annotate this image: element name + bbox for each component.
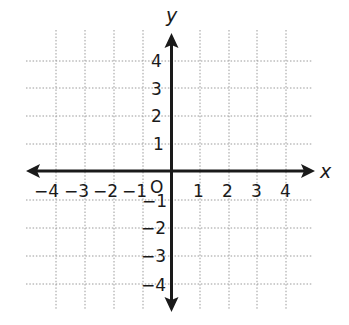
x-tick-label-3: 3 [251, 181, 262, 201]
y-axis-label: y [165, 4, 178, 26]
x-tick-label-neg4: −4 [34, 181, 59, 201]
x-tick-label-neg2: −2 [93, 181, 118, 201]
coordinate-plane-svg: x y −4 −3 −2 −1 O 1 2 3 4 4 3 2 1 −1 −2 … [0, 0, 349, 325]
x-tick-label-1: 1 [193, 181, 204, 201]
y-tick-label-neg1: −1 [142, 191, 167, 211]
y-tick-label-2: 2 [151, 106, 162, 126]
x-axis-label: x [319, 160, 332, 182]
y-tick-label-4: 4 [151, 51, 162, 71]
x-tick-label-4: 4 [280, 181, 291, 201]
y-tick-label-neg4: −4 [141, 275, 166, 295]
x-tick-label-neg3: −3 [64, 181, 89, 201]
y-tick-label-1: 1 [153, 134, 164, 154]
y-tick-label-neg2: −2 [141, 218, 166, 238]
x-tick-label-2: 2 [222, 181, 233, 201]
axes [26, 33, 315, 312]
coordinate-plane: x y −4 −3 −2 −1 O 1 2 3 4 4 3 2 1 −1 −2 … [0, 0, 349, 325]
y-tick-label-3: 3 [151, 79, 162, 99]
y-tick-label-neg3: −3 [141, 246, 166, 266]
